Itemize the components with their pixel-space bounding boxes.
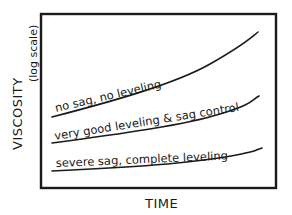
- y-axis-label: VISCOSITY: [10, 77, 25, 150]
- y-axis-sublabel: (log scale): [27, 25, 40, 82]
- viscosity-time-chart: no sag, no leveling very good leveling &…: [0, 0, 292, 215]
- label-severe-sag: severe sag, complete leveling: [56, 148, 229, 170]
- label-no-sag-no-leveling: no sag, no leveling: [54, 77, 163, 115]
- x-axis-label: TIME: [144, 196, 178, 211]
